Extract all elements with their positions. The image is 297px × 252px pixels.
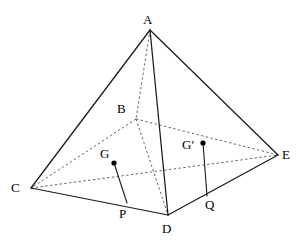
pyramid-diagram-svg: [0, 0, 297, 252]
point-Gprime: [200, 140, 205, 145]
edge-c-d: [31, 188, 168, 215]
vertex-label-b: B: [117, 102, 126, 115]
point-label-p: P: [119, 207, 126, 220]
point-label-q: Q: [205, 198, 214, 211]
pyramid-figure: A B C D E G G′ P Q: [0, 0, 297, 252]
visible-edges-group: [31, 30, 278, 215]
segment-g-p: [114, 163, 127, 203]
point-label-g-prime: G′: [182, 138, 194, 151]
edge-b-e: [136, 119, 278, 155]
point-label-g: G: [100, 147, 109, 160]
hidden-edges-group: [31, 30, 278, 215]
vertex-label-d: D: [162, 222, 171, 235]
point-G: [111, 160, 116, 165]
interior-segments-group: [114, 143, 207, 203]
edge-a-e: [150, 30, 278, 155]
vertex-label-c: C: [11, 181, 20, 194]
segment-gprime-q: [203, 143, 207, 196]
edge-a-b: [136, 30, 150, 119]
vertex-label-a: A: [143, 13, 152, 26]
edge-b-c: [31, 119, 136, 188]
vertex-label-e: E: [282, 148, 290, 161]
edge-d-e: [168, 155, 278, 215]
edge-c-e: [31, 155, 278, 188]
edge-a-c: [31, 30, 150, 188]
